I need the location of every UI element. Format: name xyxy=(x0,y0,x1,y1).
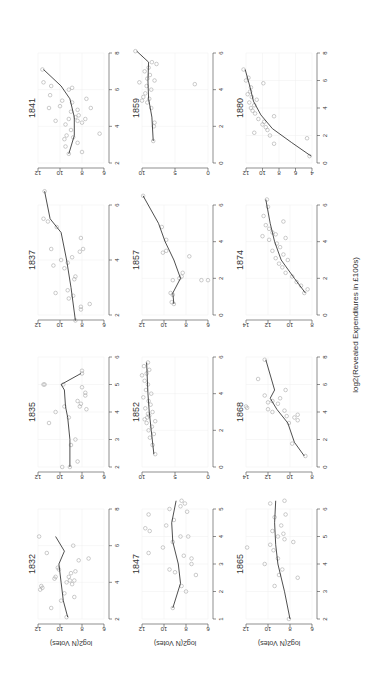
data-point xyxy=(283,537,287,541)
data-point xyxy=(42,217,46,221)
data-point xyxy=(63,266,67,270)
data-point xyxy=(85,407,89,411)
data-point xyxy=(193,82,197,86)
data-point xyxy=(278,396,282,400)
panel-1868: 1868024688101214 xyxy=(235,355,328,480)
data-point xyxy=(274,256,278,260)
panel-1857: 18570246681012 xyxy=(131,194,224,328)
data-point xyxy=(52,264,56,268)
data-point xyxy=(150,60,154,64)
y-tick-label: 6 xyxy=(102,322,106,328)
data-point xyxy=(85,97,89,101)
data-point xyxy=(98,132,102,136)
panel-title: 1837 xyxy=(27,250,37,270)
data-point xyxy=(183,502,187,506)
x-tick-label: 4 xyxy=(114,580,120,584)
data-point xyxy=(148,73,152,77)
smooth-line xyxy=(147,363,154,455)
y-tick-label: 5 xyxy=(173,170,177,176)
y-tick-label: 6 xyxy=(102,170,106,176)
data-point xyxy=(290,442,294,446)
data-point xyxy=(200,278,204,282)
data-point xyxy=(74,570,78,574)
x-tick-label: 0 xyxy=(218,313,224,317)
x-tick-label: 8 xyxy=(114,507,120,511)
data-point xyxy=(89,106,93,110)
data-point xyxy=(153,79,157,83)
data-point xyxy=(251,109,255,113)
data-point xyxy=(48,93,52,97)
y-tick-label: 8 xyxy=(80,626,84,632)
data-point xyxy=(261,234,265,238)
data-point xyxy=(194,573,198,577)
x-tick-label: 2 xyxy=(114,465,120,469)
data-point xyxy=(286,258,290,262)
panel-title: 1832 xyxy=(27,554,37,574)
data-point xyxy=(272,548,276,552)
data-point xyxy=(170,300,174,304)
x-tick-label: 6 xyxy=(218,203,224,207)
y-tick-label: 8 xyxy=(277,170,281,176)
x-tick-label: 6 xyxy=(114,203,120,207)
y-tick-label: 8 xyxy=(310,474,314,480)
x-tick-label: 3 xyxy=(322,589,328,593)
x-tick-label: 2 xyxy=(114,617,120,621)
y-tick-label: 10 xyxy=(264,626,271,632)
x-tick-label: 4 xyxy=(114,410,120,414)
x-tick-label: 5 xyxy=(322,534,328,538)
y-tick-label: 10 xyxy=(286,322,293,328)
data-point xyxy=(281,266,285,270)
data-point xyxy=(49,247,53,251)
y-tick-label: 12 xyxy=(34,322,41,328)
data-point xyxy=(67,575,71,579)
data-point xyxy=(285,414,289,418)
data-point xyxy=(76,108,80,112)
data-point xyxy=(257,117,261,121)
panel-title: 1835 xyxy=(27,402,37,422)
panel-1847: 184712345681012log2(N Votes) xyxy=(131,499,224,647)
x-tick-label: 3 xyxy=(218,562,224,566)
y-tick-label: 10 xyxy=(138,474,145,480)
x-tick-label: 8 xyxy=(114,51,120,55)
data-point xyxy=(282,220,286,224)
y-tick-label: 8 xyxy=(288,626,292,632)
data-point xyxy=(284,271,288,275)
data-point xyxy=(268,502,272,506)
data-point xyxy=(268,543,272,547)
y-tick-label: 8 xyxy=(80,474,84,480)
data-point xyxy=(145,77,149,81)
y-tick-label: 10 xyxy=(56,474,63,480)
y-tick-label: 10 xyxy=(138,170,145,176)
data-point xyxy=(272,114,276,118)
data-point xyxy=(293,416,297,420)
smooth-line xyxy=(266,200,306,294)
panel-title: 1857 xyxy=(131,250,141,270)
y-tick-label: 6 xyxy=(102,474,106,480)
x-tick-label: 2 xyxy=(114,161,120,165)
data-point xyxy=(272,142,276,146)
x-tick-label: 3 xyxy=(114,437,120,441)
x-tick-label: 4 xyxy=(218,239,224,243)
data-point xyxy=(70,255,74,259)
data-point xyxy=(181,271,185,275)
smooth-line xyxy=(266,360,305,456)
data-point xyxy=(47,106,51,110)
data-point xyxy=(282,532,286,536)
x-tick-label: 4 xyxy=(114,258,120,262)
data-point xyxy=(164,524,168,528)
data-point xyxy=(168,568,172,572)
data-point xyxy=(276,557,280,561)
data-point xyxy=(151,410,155,414)
data-point xyxy=(164,249,168,253)
data-point xyxy=(188,255,192,259)
panel-title: 1859 xyxy=(131,98,141,118)
data-point xyxy=(76,141,80,145)
y-tick-label: 8 xyxy=(184,626,188,632)
data-point xyxy=(145,101,149,105)
data-point xyxy=(76,399,80,403)
data-point xyxy=(84,117,88,121)
data-point xyxy=(141,194,145,198)
y-tick-label: 12 xyxy=(242,170,249,176)
y-axis-label: log2(N Votes) xyxy=(258,639,300,647)
data-point xyxy=(148,436,152,440)
